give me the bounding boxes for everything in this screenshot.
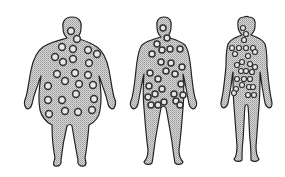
marker-circle-icon <box>94 51 101 58</box>
marker-circle-icon <box>242 38 247 43</box>
marker-circle-icon <box>172 71 178 77</box>
marker-circle-icon <box>240 60 245 65</box>
marker-circle-icon <box>179 64 185 70</box>
marker-circle-icon <box>232 91 237 96</box>
marker-circle-icon <box>235 77 240 82</box>
marker-circle-icon <box>177 102 183 108</box>
marker-circle-icon <box>250 70 255 75</box>
marker-circle-icon <box>76 81 83 88</box>
marker-circle-icon <box>235 63 240 68</box>
marker-circle-icon <box>164 35 170 41</box>
marker-circle-icon <box>177 46 183 52</box>
marker-circle-icon <box>239 69 244 74</box>
marker-circle-icon <box>54 71 61 78</box>
marker-circle-icon <box>73 91 80 98</box>
marker-circle-icon <box>90 82 97 89</box>
marker-circle-icon <box>85 47 92 54</box>
marker-circle-icon <box>70 56 77 63</box>
obese-body-outline <box>25 17 116 166</box>
marker-circle-icon <box>45 97 52 104</box>
obese-figure <box>25 17 116 166</box>
marker-circle-icon <box>159 47 165 53</box>
marker-circle-icon <box>72 70 79 77</box>
marker-circle-icon <box>251 85 256 90</box>
marker-circle-icon <box>168 60 174 66</box>
marker-circle-icon <box>159 86 165 92</box>
marker-circle-icon <box>237 46 242 51</box>
marker-circle-icon <box>74 36 81 43</box>
marker-circle-icon <box>248 77 253 82</box>
marker-circle-icon <box>59 44 66 51</box>
marker-circle-icon <box>246 54 251 59</box>
marker-circle-icon <box>160 25 166 31</box>
marker-circle-icon <box>62 78 69 85</box>
marker-circle-icon <box>149 51 155 57</box>
marker-circle-icon <box>85 72 92 79</box>
marker-circle-icon <box>68 28 75 35</box>
marker-circle-icon <box>86 60 93 67</box>
marker-circle-icon <box>60 59 67 66</box>
marker-circle-icon <box>147 70 153 76</box>
marker-circle-icon <box>46 111 53 118</box>
marker-circle-icon <box>91 96 98 103</box>
marker-circle-icon <box>246 93 251 98</box>
marker-circle-icon <box>70 46 77 53</box>
marker-circle-icon <box>244 69 249 74</box>
marker-circle-icon <box>167 46 173 52</box>
marker-circle-icon <box>146 83 152 89</box>
marker-circle-icon <box>253 65 258 70</box>
marker-circle-icon <box>45 83 52 90</box>
marker-circle-icon <box>155 102 161 108</box>
marker-circle-icon <box>253 50 258 55</box>
marker-circle-icon <box>244 46 249 51</box>
marker-circle-icon <box>230 46 235 51</box>
marker-circle-icon <box>148 102 154 108</box>
marker-circle-icon <box>248 62 253 67</box>
marker-circle-icon <box>75 109 82 116</box>
marker-circle-icon <box>155 76 161 82</box>
marker-circle-icon <box>158 59 164 65</box>
marker-circle-icon <box>161 99 167 105</box>
marker-circle-icon <box>62 108 69 115</box>
marker-circle-icon <box>180 92 186 98</box>
marker-circle-icon <box>59 97 66 104</box>
marker-circle-icon <box>240 83 245 88</box>
marker-circle-icon <box>89 107 96 114</box>
marker-circle-icon <box>152 91 158 97</box>
marker-circle-icon <box>145 94 151 100</box>
marker-circle-icon <box>252 93 257 98</box>
marker-circle-icon <box>52 54 59 61</box>
marker-circle-icon <box>241 26 246 31</box>
marker-circle-icon <box>171 91 177 97</box>
marker-circle-icon <box>163 68 169 74</box>
marker-circle-icon <box>242 77 247 82</box>
marker-circle-icon <box>244 32 249 37</box>
marker-circle-icon <box>178 81 184 87</box>
marker-circle-icon <box>154 41 160 47</box>
marker-circle-icon <box>233 52 238 57</box>
body-silhouettes-diagram <box>0 0 285 177</box>
